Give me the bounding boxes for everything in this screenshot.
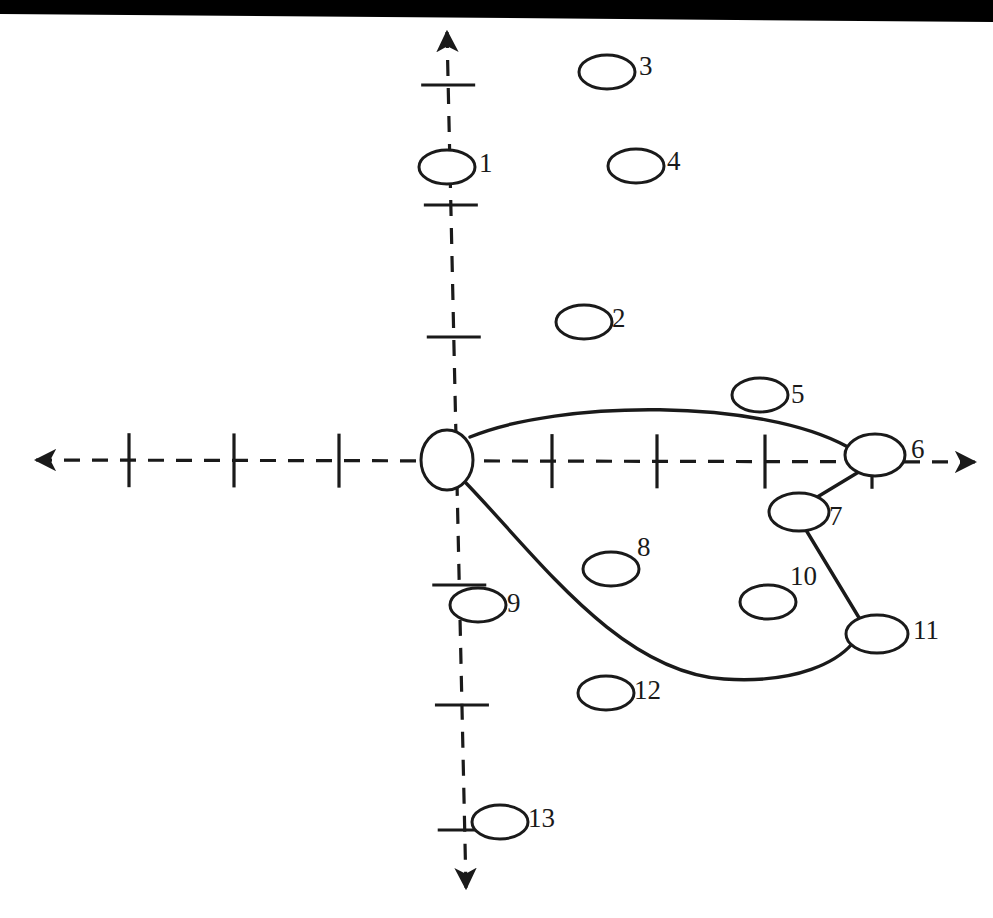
node-n9[interactable] bbox=[450, 588, 506, 622]
edges-group bbox=[466, 410, 862, 680]
node-label-n5: 5 bbox=[791, 381, 805, 408]
node-label-n13: 13 bbox=[528, 805, 555, 832]
node-n6[interactable] bbox=[845, 434, 905, 476]
node-label-n11: 11 bbox=[913, 617, 939, 644]
x-axis-line bbox=[36, 460, 975, 462]
node-n13[interactable] bbox=[472, 805, 528, 839]
node-n11[interactable] bbox=[846, 615, 908, 653]
node-n12[interactable] bbox=[578, 676, 634, 710]
node-n3[interactable] bbox=[579, 55, 635, 89]
node-n8[interactable] bbox=[583, 552, 639, 586]
node-label-n9: 9 bbox=[507, 590, 521, 617]
coordinate-node-diagram bbox=[0, 0, 993, 918]
node-n4[interactable] bbox=[608, 149, 664, 183]
node-origin[interactable] bbox=[421, 430, 473, 490]
edge-origin-to-n6 bbox=[470, 410, 848, 447]
diagram-canvas: 12345678910111213 bbox=[0, 0, 993, 918]
node-n7[interactable] bbox=[769, 493, 829, 531]
node-label-n12: 12 bbox=[634, 677, 661, 704]
node-label-n7: 7 bbox=[829, 503, 843, 530]
node-label-n1: 1 bbox=[479, 150, 493, 177]
node-n1[interactable] bbox=[419, 150, 475, 184]
axes-group bbox=[36, 32, 975, 888]
node-label-n6: 6 bbox=[911, 436, 925, 463]
node-label-n2: 2 bbox=[612, 305, 626, 332]
node-label-n4: 4 bbox=[667, 148, 681, 175]
node-label-n8: 8 bbox=[637, 534, 651, 561]
node-label-n3: 3 bbox=[639, 53, 653, 80]
node-n5[interactable] bbox=[732, 378, 788, 412]
node-n2[interactable] bbox=[556, 305, 612, 339]
edge-n6-to-n7 bbox=[814, 470, 862, 499]
node-label-n10: 10 bbox=[790, 563, 817, 590]
node-n10[interactable] bbox=[740, 585, 796, 619]
